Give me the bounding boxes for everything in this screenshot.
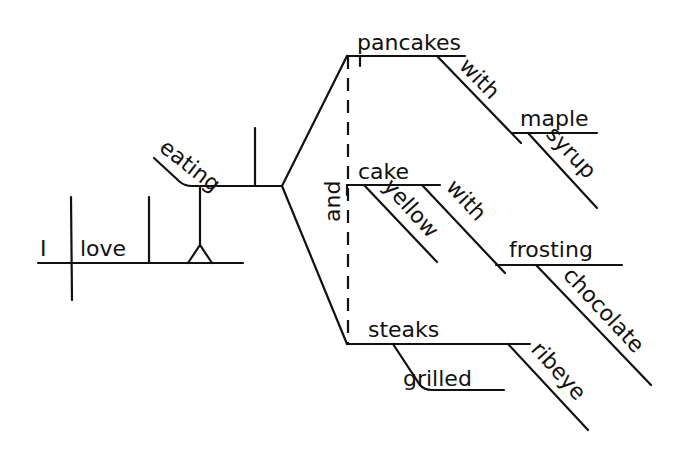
word-with1: with: [454, 53, 504, 104]
word-eating: eating: [155, 134, 225, 197]
subject-verb-divider: [71, 197, 72, 300]
word-pancakes: pancakes: [357, 30, 461, 55]
word-and: and: [320, 181, 345, 222]
word-with2: with: [441, 174, 491, 225]
word-I: I: [40, 236, 47, 261]
word-steaks: steaks: [368, 317, 439, 342]
word-chocolate: chocolate: [558, 262, 649, 357]
gerund-pedestal: [188, 245, 212, 263]
word-ribeye: ribeye: [526, 337, 591, 405]
word-grilled: grilled: [403, 366, 472, 391]
word-frosting: frosting: [509, 237, 593, 262]
word-love: love: [80, 236, 126, 261]
sentence-diagram: I love eating and pancakes with maple sy…: [0, 0, 691, 451]
